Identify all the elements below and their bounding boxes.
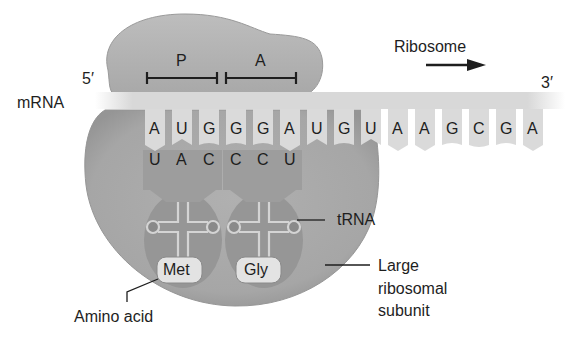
- mrna-label: mRNA: [17, 94, 64, 112]
- mrna-strand: [95, 92, 565, 109]
- codon-base: G: [338, 120, 350, 138]
- amino-acid-gly: Gly: [244, 261, 268, 279]
- large-subunit-label-3: subunit: [378, 302, 430, 320]
- codon-base: G: [230, 120, 242, 138]
- codon-base: U: [311, 120, 323, 138]
- codon-base: C: [473, 120, 485, 138]
- five-prime-label: 5′: [82, 70, 94, 88]
- large-subunit-label-2: ribosomal: [378, 280, 447, 298]
- amino-acid-met: Met: [163, 261, 190, 279]
- ribosome-label: Ribosome: [394, 38, 466, 56]
- trna-label: tRNA: [337, 211, 375, 229]
- codon-base: A: [149, 120, 160, 138]
- anticodon-base: U: [284, 151, 296, 169]
- codon-base: G: [500, 120, 512, 138]
- small-ribosomal-subunit: [107, 14, 323, 96]
- codon-base: A: [527, 120, 538, 138]
- anticodon-base: C: [230, 151, 242, 169]
- anticodon-base: C: [203, 151, 215, 169]
- a-site-label: A: [255, 52, 266, 70]
- codon-base: A: [284, 120, 295, 138]
- codon-base: G: [203, 120, 215, 138]
- p-site-label: P: [176, 52, 187, 70]
- codon-base: U: [176, 120, 188, 138]
- codon-base: A: [419, 120, 430, 138]
- amino-acid-label: Amino acid: [74, 308, 153, 326]
- codon-base: A: [392, 120, 403, 138]
- codon-base: G: [257, 120, 269, 138]
- large-subunit-label-1: Large: [378, 257, 419, 275]
- codon-base: G: [446, 120, 458, 138]
- anticodon-base: A: [176, 151, 187, 169]
- anticodon-base: C: [257, 151, 269, 169]
- anticodon-base: U: [149, 151, 161, 169]
- three-prime-label: 3′: [541, 74, 553, 92]
- codon-base: U: [365, 120, 377, 138]
- direction-arrow-icon: [426, 59, 486, 71]
- ribosome-diagram: [0, 0, 571, 342]
